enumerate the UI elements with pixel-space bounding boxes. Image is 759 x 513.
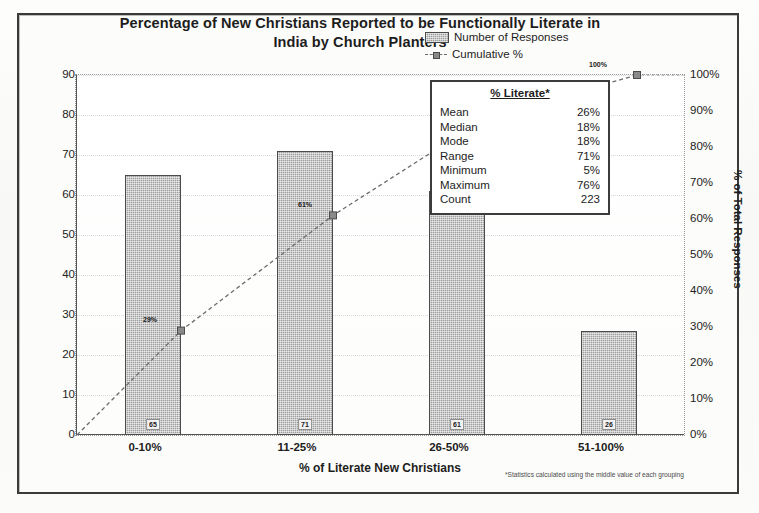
- stat-value-mode: 18%: [577, 134, 600, 149]
- stat-row-mode: Mode 18%: [440, 134, 600, 149]
- legend-label-cumulative-percent: Cumulative %: [452, 46, 523, 63]
- chart-footnote: *Statistics calculated using the middle …: [505, 471, 730, 478]
- stat-row-count: Count 223: [440, 192, 600, 207]
- chart-title-line-2: India by Church Planters: [40, 33, 680, 52]
- y-tick-right-40: 40%: [690, 284, 734, 296]
- x-tick-0-10: 0-10%: [75, 441, 215, 453]
- y-tick-right-20: 20%: [690, 356, 734, 368]
- y-tick-right-0: 0%: [690, 428, 734, 440]
- bar-11-25: 71: [277, 151, 333, 435]
- y-tick-right-100: 100%: [690, 68, 734, 80]
- y-tick-right-50: 50%: [690, 248, 734, 260]
- chart-title-line-1: Percentage of New Christians Reported to…: [40, 14, 680, 33]
- legend-item-number-of-responses: Number of Responses: [425, 29, 568, 46]
- stat-row-mean: Mean 26%: [440, 105, 600, 120]
- y-tick-right-80: 80%: [690, 140, 734, 152]
- stat-row-maximum: Maximum 76%: [440, 178, 600, 193]
- y-tick-left-30: 30: [35, 308, 75, 320]
- y-tick-left-0: 0: [35, 428, 75, 440]
- y-axis-line: [76, 75, 77, 435]
- bar-value-label-26-50: 61: [450, 419, 464, 430]
- stat-row-median: Median 18%: [440, 120, 600, 135]
- stat-row-minimum: Minimum 5%: [440, 163, 600, 178]
- bar-value-label-0-10: 65: [146, 419, 160, 430]
- stat-key-count: Count: [440, 192, 471, 207]
- stat-key-minimum: Minimum: [440, 163, 487, 178]
- cumulative-label-0-10: 29%: [143, 316, 157, 323]
- chart-page: Percentage of New Christians Reported to…: [0, 0, 759, 513]
- stat-key-mean: Mean: [440, 105, 469, 120]
- y-tick-left-40: 40: [35, 268, 75, 280]
- y-tick-left-70: 70: [35, 148, 75, 160]
- stat-key-maximum: Maximum: [440, 178, 490, 193]
- stat-value-maximum: 76%: [577, 178, 600, 193]
- cumulative-label-51-100: 100%: [589, 61, 607, 68]
- y-tick-right-30: 30%: [690, 320, 734, 332]
- cumulative-label-11-25: 61%: [298, 201, 312, 208]
- stat-key-mode: Mode: [440, 134, 469, 149]
- legend-item-cumulative-percent: Cumulative %: [425, 46, 568, 63]
- bar-swatch-icon: [425, 32, 449, 43]
- stat-row-range: Range 71%: [440, 149, 600, 164]
- y-tick-left-60: 60: [35, 188, 75, 200]
- y-tick-left-20: 20: [35, 348, 75, 360]
- statistics-box: % Literate* Mean 26% Median 18% Mode 18%…: [430, 80, 610, 215]
- y-tick-right-90: 90%: [690, 104, 734, 116]
- x-tick-11-25: 11-25%: [227, 441, 367, 453]
- stat-value-median: 18%: [577, 120, 600, 135]
- y-tick-left-80: 80: [35, 108, 75, 120]
- bar-value-label-11-25: 71: [298, 419, 312, 430]
- bar-51-100: 26: [581, 331, 637, 435]
- x-tick-26-50: 26-50%: [379, 441, 519, 453]
- legend-label-number-of-responses: Number of Responses: [454, 29, 568, 46]
- bar-26-50: 61: [429, 191, 485, 435]
- stat-key-range: Range: [440, 149, 474, 164]
- y-tick-right-70: 70%: [690, 176, 734, 188]
- stat-value-count: 223: [581, 192, 600, 207]
- bar-value-label-51-100: 26: [602, 419, 616, 430]
- gridline-90: [76, 75, 684, 76]
- bar-0-10: 65: [125, 175, 181, 435]
- stat-key-median: Median: [440, 120, 478, 135]
- y-tick-left-50: 50: [35, 228, 75, 240]
- y-tick-right-60: 60%: [690, 212, 734, 224]
- stat-value-minimum: 5%: [583, 163, 600, 178]
- stat-value-mean: 26%: [577, 105, 600, 120]
- statistics-box-title: % Literate*: [440, 87, 600, 99]
- stat-value-range: 71%: [577, 149, 600, 164]
- y-tick-left-90: 90: [35, 68, 75, 80]
- line-marker-icon: [425, 50, 447, 59]
- chart-legend: Number of Responses Cumulative %: [425, 29, 568, 63]
- y-tick-right-10: 10%: [690, 392, 734, 404]
- y-tick-left-10: 10: [35, 388, 75, 400]
- chart-title: Percentage of New Christians Reported to…: [40, 14, 680, 52]
- x-tick-51-100: 51-100%: [531, 441, 671, 453]
